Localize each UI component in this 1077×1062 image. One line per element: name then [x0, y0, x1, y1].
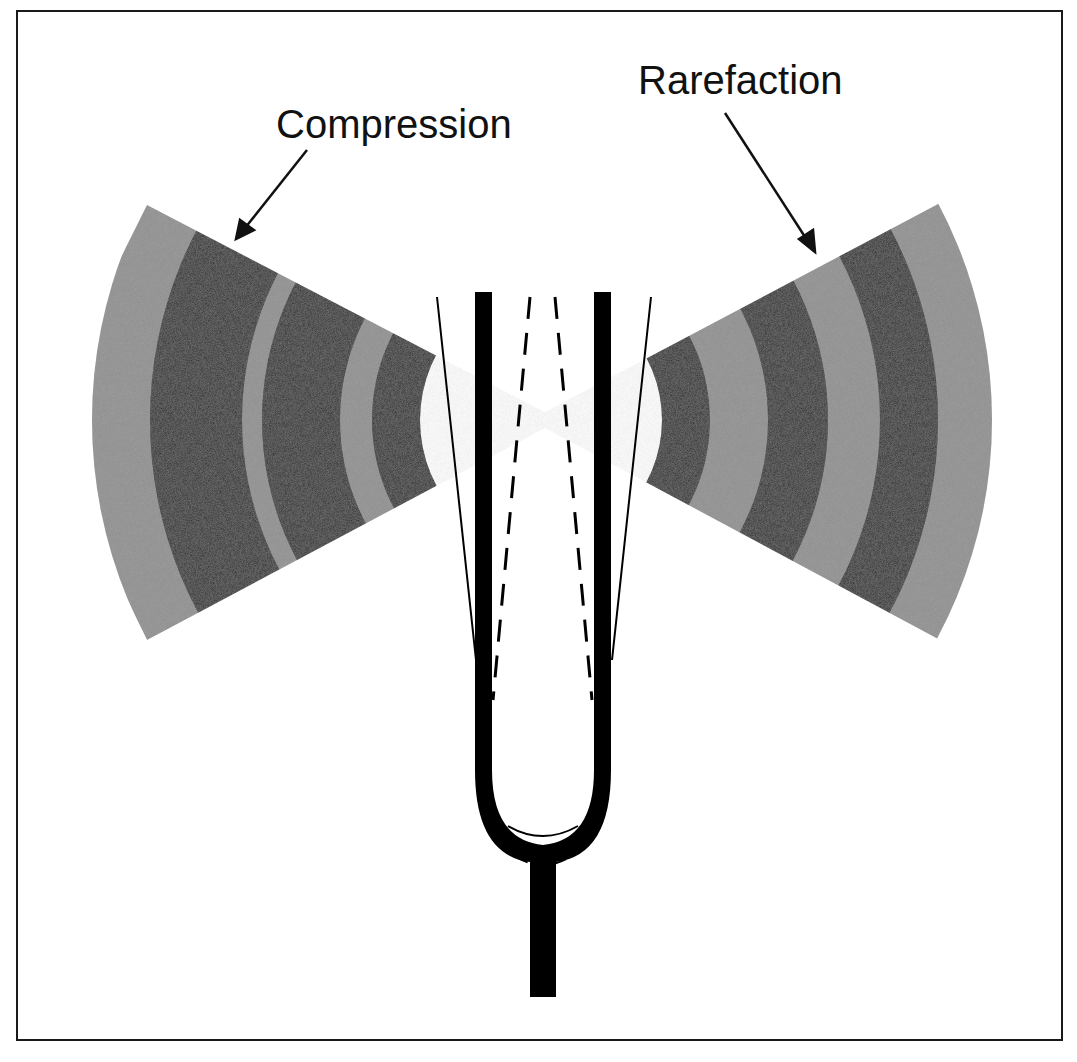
compression-arrow — [236, 150, 307, 239]
rarefaction-arrow — [725, 113, 815, 252]
rarefaction-label: Rarefaction — [638, 60, 843, 100]
fork-bend-inner — [508, 826, 578, 836]
right-tine-inward-position — [555, 297, 592, 700]
compression-label: Compression — [276, 104, 512, 144]
diagram-canvas — [0, 0, 1077, 1062]
left-tine-inward-position — [493, 297, 530, 700]
